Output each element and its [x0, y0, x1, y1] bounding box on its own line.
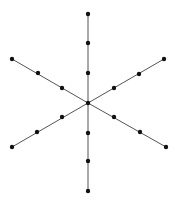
- node-down-1: [86, 131, 90, 135]
- node-lower-left-2: [35, 130, 39, 134]
- node-down-2: [86, 159, 90, 163]
- node-upper-right-2: [137, 72, 141, 76]
- edge-upper-right: [88, 59, 164, 103]
- node-upper-left-3: [10, 57, 14, 61]
- node-upper-right-1: [112, 86, 116, 90]
- node-upper-right-3: [162, 57, 166, 61]
- node-up-1: [86, 71, 90, 75]
- node-up-3: [86, 12, 90, 16]
- node-upper-left-1: [60, 86, 64, 90]
- star-graph-diagram: [0, 0, 175, 201]
- node-lower-right-2: [138, 130, 142, 134]
- node-lower-left-1: [60, 115, 64, 119]
- node-upper-left-2: [36, 71, 40, 75]
- edge-lower-left: [12, 103, 88, 147]
- node-up-2: [86, 41, 90, 45]
- node-down-3: [86, 189, 90, 193]
- node-lower-right-1: [112, 115, 116, 119]
- node-lower-left-3: [10, 145, 14, 149]
- center-node: [86, 101, 90, 105]
- edge-upper-left: [12, 59, 88, 103]
- node-lower-right-3: [164, 145, 168, 149]
- edge-lower-right: [88, 103, 166, 147]
